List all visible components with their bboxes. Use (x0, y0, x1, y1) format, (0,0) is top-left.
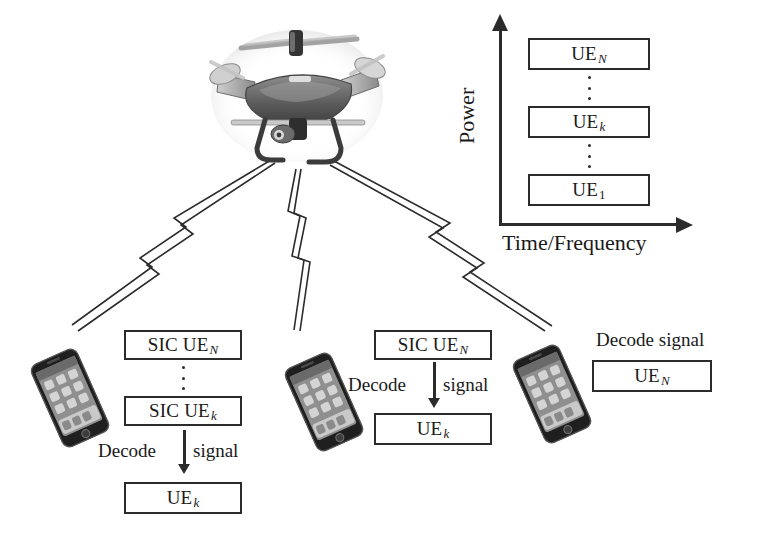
phone-left-icon (28, 345, 113, 450)
x-axis-label: Time/Frequency (502, 230, 647, 256)
left-sic-box-n-label: SIC UEN (148, 335, 219, 356)
middle-decode-label-b: signal (443, 375, 488, 394)
left-decode-arrow (177, 430, 191, 474)
middle-sic-box-n: SIC UEN (374, 330, 492, 360)
power-time-frequency-chart: Power Time/Frequency UEN UEk UE1 (440, 8, 740, 258)
left-sic-box-k: SIC UEk (124, 396, 242, 426)
chart-block-ue-1: UE1 (528, 174, 650, 206)
beam-middle-lightning-icon (288, 169, 310, 331)
chart-block-ue-n-label: UEN (571, 44, 607, 65)
left-decode-label-a: Decode (98, 441, 156, 460)
chart-block-ue-n: UEN (528, 38, 650, 70)
beam-left-lightning-icon (72, 160, 275, 331)
left-result-box: UEk (124, 482, 242, 514)
left-sic-box-k-label: SIC UEk (149, 401, 217, 422)
right-result-box: UEN (592, 360, 712, 392)
left-sic-box-n: SIC UEN (124, 330, 242, 360)
left-decode-label-b: signal (193, 441, 238, 460)
figure-canvas: Power Time/Frequency UEN UEk UE1 (0, 0, 768, 543)
middle-sic-box-n-label: SIC UEN (398, 335, 469, 356)
chart-ellipsis-upper (587, 76, 591, 100)
chart-ellipsis-lower (587, 144, 591, 168)
y-axis-line (499, 30, 502, 226)
middle-result-box-label: UEk (417, 419, 450, 440)
y-axis-arrowhead (492, 14, 508, 31)
x-axis-line (499, 223, 679, 226)
x-axis-arrowhead (676, 217, 693, 233)
y-axis-label: Power (454, 88, 480, 144)
left-result-box-label: UEk (167, 488, 200, 509)
drone-icon (205, 8, 390, 168)
middle-decode-arrow (427, 362, 441, 408)
chart-block-ue-k: UEk (528, 106, 650, 138)
right-decode-label: Decode signal (596, 330, 704, 349)
chart-block-ue-1-label: UE1 (572, 180, 605, 201)
chart-block-ue-k-label: UEk (573, 112, 606, 133)
right-result-box-label: UEN (634, 366, 670, 387)
phone-middle-icon (282, 349, 367, 454)
middle-decode-label-a: Decode (348, 375, 406, 394)
middle-result-box: UEk (374, 413, 492, 445)
phone-right-icon (510, 341, 595, 446)
left-ellipsis (181, 366, 185, 390)
